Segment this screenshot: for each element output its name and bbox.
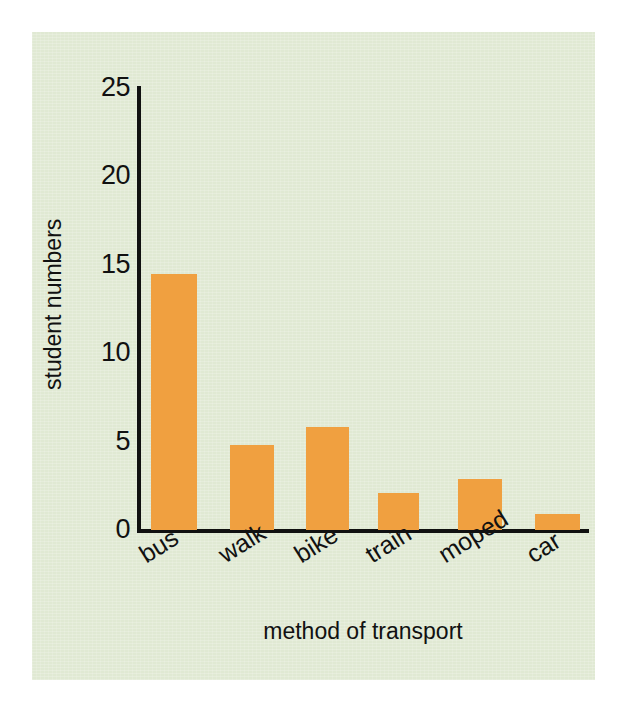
bar-bike <box>306 427 349 530</box>
y-axis-tick-15: 15 <box>82 251 130 278</box>
plot-area: 0510152025 buswalkbiketrainmopedcar stud… <box>0 0 623 713</box>
y-axis-tick-0: 0 <box>82 516 130 543</box>
y-axis-tick-10: 10 <box>82 339 130 366</box>
x-axis-tick-walk: walk <box>214 519 270 567</box>
bar-bus <box>151 274 197 530</box>
x-axis-line <box>137 529 589 533</box>
bar-walk <box>230 445 274 530</box>
figure-canvas: 0510152025 buswalkbiketrainmopedcar stud… <box>0 0 623 713</box>
y-axis-tick-20: 20 <box>82 162 130 189</box>
y-axis-line <box>137 86 141 533</box>
x-axis-tick-car: car <box>522 528 565 568</box>
bar-car <box>535 514 580 530</box>
y-axis-tick-25: 25 <box>82 74 130 101</box>
x-axis-title: method of transport <box>137 620 589 643</box>
y-axis-title: student numbers <box>42 219 65 390</box>
y-axis-tick-5: 5 <box>82 428 130 455</box>
